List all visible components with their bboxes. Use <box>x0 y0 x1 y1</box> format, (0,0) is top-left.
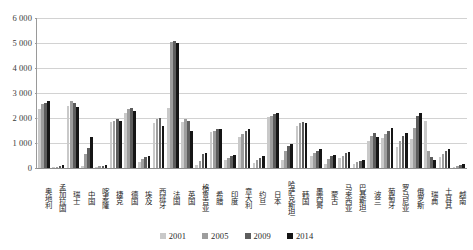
x-axis-label: 马来西亚 <box>337 170 351 224</box>
x-axis-label: 中国 <box>80 170 94 224</box>
bar-group <box>237 18 251 168</box>
bar-group <box>166 18 180 168</box>
x-axis-label: 波兰 <box>366 170 380 224</box>
y-axis-tick-label: 4 000 <box>12 63 32 73</box>
x-axis-label: 约旦 <box>251 170 265 224</box>
legend-label: 2014 <box>296 231 313 241</box>
bar <box>133 111 136 169</box>
bar <box>433 160 436 168</box>
bar-group <box>137 18 151 168</box>
bar-chart: 6 0005 0004 0003 0002 0001 0000 奥地利孟加拉国瑞… <box>0 0 473 250</box>
x-axis-label: 英国 <box>180 170 194 224</box>
bar <box>376 137 379 168</box>
bar-group <box>223 18 237 168</box>
bar <box>290 144 293 168</box>
y-axis-tick-label: 0 <box>28 163 32 173</box>
y-axis-tick-label: 3 000 <box>12 88 32 98</box>
bar-group <box>180 18 194 168</box>
bar <box>405 133 408 168</box>
x-axis-label: 瑞典 <box>423 170 437 224</box>
chart-legend: 2001200520092014 <box>0 231 473 241</box>
bar <box>391 128 394 168</box>
x-axis-label: 德国 <box>123 170 137 224</box>
bar-group <box>423 18 437 168</box>
x-axis-label: 印度 <box>223 170 237 224</box>
y-axis: 6 0005 0004 0003 0002 0001 0000 <box>0 0 36 176</box>
bar-group <box>80 18 94 168</box>
legend-label: 2009 <box>254 231 271 241</box>
bar-group <box>352 18 366 168</box>
x-axis-label: 葡萄牙 <box>380 170 394 224</box>
x-axis-label: 希腊 <box>209 170 223 224</box>
bar-group <box>194 18 208 168</box>
bar <box>90 137 93 168</box>
bar <box>348 152 351 168</box>
bar <box>62 165 65 168</box>
x-axis-label: 俄罗斯 <box>409 170 423 224</box>
x-axis-label: 奥地利 <box>37 170 51 224</box>
legend-label: 2001 <box>169 231 186 241</box>
bar-group <box>323 18 337 168</box>
x-axis-label: 蒙古 <box>323 170 337 224</box>
y-axis-tick-label: 1 000 <box>12 138 32 148</box>
x-axis-label: 意大利 <box>237 170 251 224</box>
x-axis-label: 埃及 <box>137 170 151 224</box>
y-axis-tick-label: 5 000 <box>12 38 32 48</box>
bar <box>119 121 122 169</box>
x-axis-label: 罗马尼亚 <box>394 170 408 224</box>
x-axis-label: 喀麦隆 <box>94 170 108 224</box>
bar <box>319 149 322 169</box>
x-axis-label: 哈萨克斯坦 <box>280 170 294 224</box>
bar-group <box>280 18 294 168</box>
bar <box>248 129 251 168</box>
legend-swatch-icon <box>287 233 293 239</box>
bar-group <box>108 18 122 168</box>
bar-group <box>309 18 323 168</box>
bar <box>47 101 50 169</box>
legend-swatch-icon <box>160 233 166 239</box>
y-axis-tick-label: 6 000 <box>12 13 32 23</box>
bar <box>333 155 336 168</box>
x-axis-label: 巴基斯坦 <box>352 170 366 224</box>
x-axis-label: 捷克 <box>108 170 122 224</box>
bar-group <box>66 18 80 168</box>
legend-item[interactable]: 2005 <box>202 231 228 241</box>
bar <box>419 113 422 168</box>
bar <box>219 129 222 169</box>
y-axis-tick-label: 2 000 <box>12 113 32 123</box>
bar-group <box>337 18 351 168</box>
legend-swatch-icon <box>245 233 251 239</box>
bar-group <box>294 18 308 168</box>
bar-group <box>366 18 380 168</box>
bar <box>262 156 265 169</box>
x-axis-label: 韩国 <box>294 170 308 224</box>
bar <box>448 149 451 168</box>
bar <box>76 107 79 168</box>
x-axis-label: 格鲁吉亚 <box>194 170 208 224</box>
bar <box>462 164 465 168</box>
bar-group <box>209 18 223 168</box>
bar-group <box>37 18 51 168</box>
bar-group <box>266 18 280 168</box>
legend-item[interactable]: 2014 <box>287 231 313 241</box>
bar <box>148 156 151 168</box>
axis-baseline <box>37 168 467 169</box>
x-axis-label: 墨西哥 <box>309 170 323 224</box>
legend-item[interactable]: 2001 <box>160 231 186 241</box>
bar <box>305 123 308 168</box>
x-axis-label: 法国 <box>166 170 180 224</box>
bar <box>205 153 208 169</box>
bar-group <box>123 18 137 168</box>
bar <box>162 126 165 169</box>
bar-group <box>251 18 265 168</box>
x-axis-labels: 奥地利孟加拉国瑞士中国喀麦隆捷克德国埃及西班牙法国英国格鲁吉亚希腊印度意大利约旦… <box>37 170 466 224</box>
x-axis-label: 土耳其 <box>437 170 451 224</box>
bar-group <box>409 18 423 168</box>
bars-container <box>37 18 466 168</box>
x-axis-label: 越南 <box>452 170 466 224</box>
legend-item[interactable]: 2009 <box>245 231 271 241</box>
bar <box>176 43 179 168</box>
bar-group <box>437 18 451 168</box>
bar-group <box>452 18 466 168</box>
x-axis-label: 西班牙 <box>151 170 165 224</box>
